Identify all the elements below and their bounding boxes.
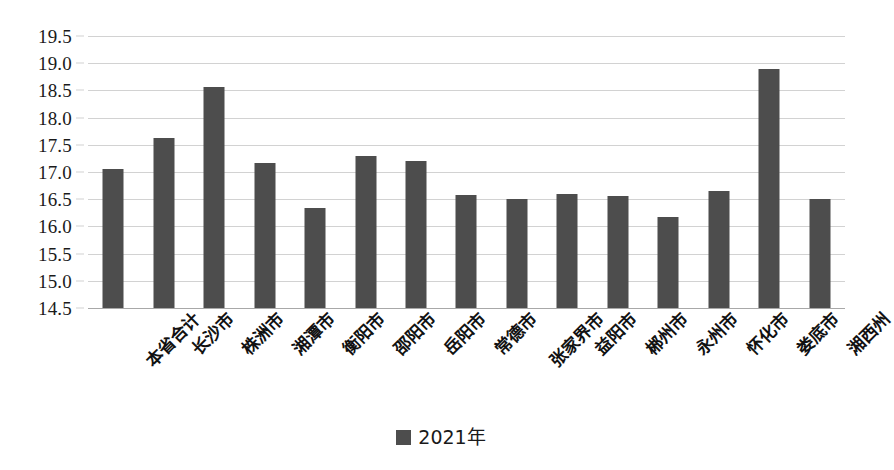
bar-slot	[643, 36, 693, 308]
bar-slot	[88, 36, 138, 308]
y-axis-tick-mark	[76, 280, 84, 281]
bar-slot	[492, 36, 542, 308]
y-axis-tick-mark	[76, 253, 84, 254]
y-axis-tick-mark	[76, 199, 84, 200]
y-axis-tick-mark	[76, 36, 84, 37]
bar[interactable]	[204, 87, 225, 308]
x-axis-tick-label: 岳阳市	[441, 310, 489, 358]
y-axis-tick-label: 19.5	[38, 27, 72, 46]
y-axis-tick-mark	[76, 226, 84, 227]
x-axis-tick-label: 邵阳市	[391, 310, 439, 358]
bar[interactable]	[103, 169, 124, 308]
chart-legend: 2021年	[0, 428, 882, 447]
y-axis-tick-label: 16.5	[38, 190, 72, 209]
bar[interactable]	[607, 196, 628, 308]
bar-slot	[694, 36, 744, 308]
bar[interactable]	[557, 194, 578, 308]
gridline	[88, 308, 845, 309]
y-axis-tick-label: 19.0	[38, 54, 72, 73]
y-axis-tick-mark	[76, 90, 84, 91]
bar-slot	[290, 36, 340, 308]
y-axis-tick-label: 16.0	[38, 217, 72, 236]
legend-item-label: 2021年	[418, 428, 485, 447]
legend-swatch-icon	[396, 430, 411, 445]
bar-slot	[138, 36, 188, 308]
bar-slot	[593, 36, 643, 308]
y-axis-tick-label: 15.5	[38, 244, 72, 263]
y-axis: 19.519.018.518.017.517.016.516.015.515.0…	[0, 36, 84, 308]
bar-slot	[542, 36, 592, 308]
x-axis-tick-label: 怀化市	[744, 310, 792, 358]
bar-slot	[391, 36, 441, 308]
y-axis-tick-label: 15.0	[38, 271, 72, 290]
x-axis: 本省合计长沙市株洲市湘潭市衡阳市邵阳市岳阳市常德市张家界市益阳市郴州市永州市怀化…	[88, 310, 845, 410]
y-axis-tick-mark	[76, 172, 84, 173]
bar[interactable]	[153, 138, 174, 308]
y-axis-tick-mark	[76, 308, 84, 309]
bar[interactable]	[759, 69, 780, 308]
bar[interactable]	[809, 199, 830, 308]
x-axis-tick-label: 湘西州	[845, 310, 893, 358]
x-axis-tick-label: 郴州市	[643, 310, 691, 358]
bar-slot	[189, 36, 239, 308]
bar-slot	[340, 36, 390, 308]
y-axis-tick-label: 17.5	[38, 135, 72, 154]
y-axis-tick-mark	[76, 144, 84, 145]
x-axis-tick-label: 湘潭市	[290, 310, 338, 358]
bar[interactable]	[355, 156, 376, 308]
bar[interactable]	[305, 208, 326, 308]
y-axis-tick-mark	[76, 63, 84, 64]
bar[interactable]	[658, 217, 679, 308]
bar-slot	[744, 36, 794, 308]
bar[interactable]	[708, 191, 729, 308]
y-axis-tick-label: 17.0	[38, 163, 72, 182]
x-axis-tick-label: 衡阳市	[340, 310, 388, 358]
x-axis-tick-label: 常德市	[491, 310, 539, 358]
x-axis-tick-label: 永州市	[693, 310, 741, 358]
bar[interactable]	[406, 161, 427, 308]
x-axis-tick-label: 株洲市	[239, 310, 287, 358]
bar[interactable]	[254, 163, 275, 308]
y-axis-tick-label: 18.0	[38, 108, 72, 127]
bar-slot	[795, 36, 845, 308]
y-axis-tick-label: 14.5	[38, 299, 72, 318]
bar[interactable]	[506, 199, 527, 308]
bar[interactable]	[456, 195, 477, 308]
y-axis-tick-label: 18.5	[38, 81, 72, 100]
bar-slot	[239, 36, 289, 308]
bars-layer	[88, 36, 845, 308]
y-axis-tick-mark	[76, 117, 84, 118]
x-axis-tick-label: 娄底市	[794, 310, 842, 358]
bar-slot	[441, 36, 491, 308]
